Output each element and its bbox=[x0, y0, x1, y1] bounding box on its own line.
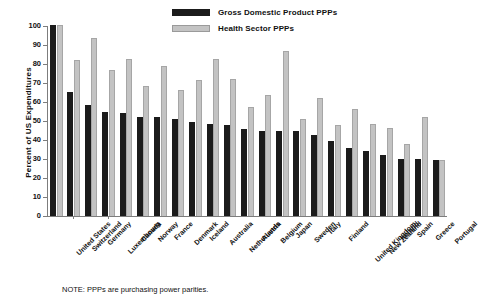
bar-gdp bbox=[172, 119, 178, 216]
bar-gdp bbox=[154, 117, 160, 216]
y-tick-20: 20 bbox=[47, 178, 48, 179]
y-axis-title: Percent of US Expenditures bbox=[24, 43, 33, 203]
y-tick-mark bbox=[43, 102, 47, 103]
y-tick-70: 70 bbox=[47, 83, 48, 84]
bar-health bbox=[143, 86, 149, 216]
bar-health bbox=[404, 144, 410, 216]
bar-gdp bbox=[224, 125, 230, 216]
bar-gdp bbox=[259, 131, 265, 217]
y-tick-label: 20 bbox=[33, 173, 41, 182]
bar-gdp bbox=[433, 160, 439, 216]
plot-area: 0102030405060708090100 bbox=[47, 26, 447, 216]
y-tick-mark bbox=[43, 26, 47, 27]
bar-health bbox=[230, 79, 236, 216]
y-tick-mark bbox=[43, 197, 47, 198]
y-tick-mark bbox=[43, 121, 47, 122]
bar-gdp bbox=[346, 148, 352, 216]
legend-label-gdp: Gross Domestic Product PPPs bbox=[218, 8, 337, 17]
bar-gdp bbox=[398, 159, 404, 216]
bar-gdp bbox=[189, 122, 195, 216]
bar-gdp bbox=[328, 141, 334, 216]
x-tick-mark bbox=[73, 216, 74, 219]
legend-item-gdp: Gross Domestic Product PPPs bbox=[172, 6, 402, 19]
y-tick-90: 90 bbox=[47, 45, 48, 46]
y-tick-mark bbox=[43, 216, 47, 217]
bar-health bbox=[57, 25, 63, 216]
y-tick-mark bbox=[43, 140, 47, 141]
bar-gdp bbox=[50, 25, 56, 216]
y-tick-mark bbox=[43, 83, 47, 84]
y-tick-10: 10 bbox=[47, 197, 48, 198]
y-tick-100: 100 bbox=[47, 26, 48, 27]
bar-health bbox=[387, 128, 393, 216]
bar-health bbox=[283, 51, 289, 216]
y-tick-50: 50 bbox=[47, 121, 48, 122]
x-tick-mark bbox=[108, 216, 109, 219]
bar-health bbox=[248, 107, 254, 216]
bar-health bbox=[300, 119, 306, 216]
y-tick-0: 0 bbox=[47, 216, 48, 217]
bar-gdp bbox=[85, 105, 91, 216]
y-tick-label: 90 bbox=[33, 40, 41, 49]
bar-gdp bbox=[120, 113, 126, 216]
y-tick-40: 40 bbox=[47, 140, 48, 141]
bar-gdp bbox=[67, 92, 73, 216]
y-tick-label: 40 bbox=[33, 135, 41, 144]
bar-gdp bbox=[102, 112, 108, 217]
y-tick-label: 30 bbox=[33, 154, 41, 163]
y-tick-label: 60 bbox=[33, 97, 41, 106]
y-tick-mark bbox=[43, 45, 47, 46]
y-tick-label: 80 bbox=[33, 59, 41, 68]
bar-gdp bbox=[137, 117, 143, 216]
bar-health bbox=[335, 125, 341, 216]
bar-health bbox=[439, 160, 445, 216]
x-axis-label: Greece bbox=[434, 220, 456, 242]
y-tick-label: 10 bbox=[33, 192, 41, 201]
bar-gdp bbox=[311, 135, 317, 216]
y-tick-mark bbox=[43, 64, 47, 65]
bar-health bbox=[178, 90, 184, 216]
bar-health bbox=[161, 66, 167, 216]
bar-health bbox=[422, 117, 428, 216]
bar-gdp bbox=[363, 151, 369, 216]
y-tick-label: 0 bbox=[37, 211, 41, 220]
bar-gdp bbox=[380, 155, 386, 216]
y-tick-label: 100 bbox=[28, 21, 41, 30]
bar-health bbox=[196, 80, 202, 216]
y-tick-label: 50 bbox=[33, 116, 41, 125]
y-tick-60: 60 bbox=[47, 102, 48, 103]
bar-health bbox=[126, 59, 132, 216]
y-tick-30: 30 bbox=[47, 159, 48, 160]
bar-health bbox=[265, 95, 271, 216]
y-tick-label: 70 bbox=[33, 78, 41, 87]
bar-gdp bbox=[207, 124, 213, 216]
bar-health bbox=[74, 60, 80, 216]
x-axis-label: Finland bbox=[348, 220, 371, 243]
y-tick-mark bbox=[43, 178, 47, 179]
legend-swatch-gdp bbox=[172, 9, 210, 16]
bar-gdp bbox=[276, 131, 282, 217]
x-axis-label: Australia bbox=[227, 220, 253, 246]
bar-gdp bbox=[415, 159, 421, 216]
bar-health bbox=[213, 59, 219, 216]
bar-gdp bbox=[241, 129, 247, 216]
bar-health bbox=[109, 70, 115, 216]
y-tick-mark bbox=[43, 159, 47, 160]
y-tick-80: 80 bbox=[47, 64, 48, 65]
chart-note: NOTE: PPPs are purchasing power parities… bbox=[62, 285, 208, 294]
bar-health bbox=[91, 38, 97, 216]
x-axis-label: Portugal bbox=[453, 220, 478, 245]
bar-health bbox=[317, 98, 323, 216]
bar-gdp bbox=[293, 131, 299, 216]
bar-health bbox=[370, 124, 376, 216]
bar-health bbox=[352, 109, 358, 216]
